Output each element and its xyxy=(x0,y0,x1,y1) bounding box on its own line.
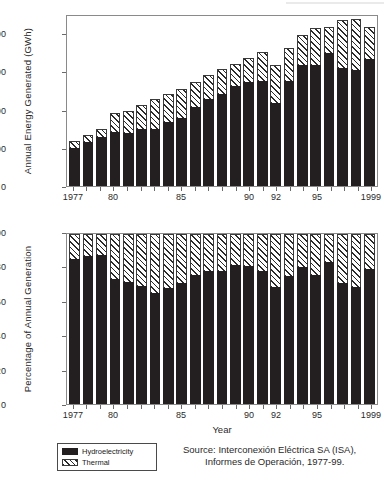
bar-column xyxy=(110,16,121,186)
bar-segment-hydroelectricity xyxy=(217,94,228,186)
bar-segment-hydroelectricity xyxy=(297,267,308,404)
x-tick-mark xyxy=(141,187,142,191)
bar-segment-hydroelectricity xyxy=(217,271,228,404)
bar-segment-thermal xyxy=(243,234,254,266)
bar-column xyxy=(217,16,228,186)
bar-segment-thermal xyxy=(217,234,228,271)
bar-segment-thermal xyxy=(190,82,201,106)
x-tick-mark xyxy=(344,405,345,409)
x-tick-mark xyxy=(127,405,128,409)
bar-segment-thermal xyxy=(163,234,174,288)
x-tick-mark xyxy=(127,187,128,191)
bar-column xyxy=(83,234,94,404)
source-note: Source: Interconexión Eléctrica SA (ISA)… xyxy=(183,444,356,468)
bar-segment-hydroelectricity xyxy=(284,276,295,404)
bar-column xyxy=(163,16,174,186)
bar-segment-thermal xyxy=(257,234,268,271)
legend-label-hydroelectricity: Hydroelectricity xyxy=(82,447,133,456)
bar-column xyxy=(297,16,308,186)
bar-segment-hydroelectricity xyxy=(337,68,348,186)
bar-segment-hydroelectricity xyxy=(324,53,335,186)
y-axis-percentage: 020406080100 xyxy=(0,0,66,425)
bar-segment-thermal xyxy=(123,111,134,132)
x-tick-label: 85 xyxy=(176,410,186,420)
bar-segment-thermal xyxy=(110,234,121,279)
bar-column xyxy=(324,234,335,404)
x-tick-mark xyxy=(303,187,304,191)
bar-column xyxy=(257,234,268,404)
bar-segment-thermal xyxy=(297,35,308,65)
source-note-line-2: Informes de Operación, 1977-99. xyxy=(183,456,356,468)
bar-column xyxy=(69,16,80,186)
y-tick-label: 0 xyxy=(1,400,6,410)
x-tick-mark xyxy=(86,405,87,409)
bar-segment-hydroelectricity xyxy=(310,275,321,404)
bar-segment-hydroelectricity xyxy=(297,65,308,186)
x-tick-mark xyxy=(86,187,87,191)
bar-segment-thermal xyxy=(310,28,321,65)
bar-segment-hydroelectricity xyxy=(176,283,187,404)
x-tick-mark xyxy=(73,187,74,191)
bar-column xyxy=(324,16,335,186)
x-tick-mark xyxy=(263,187,264,191)
y-tick-label: 20 xyxy=(0,366,6,376)
bar-segment-hydroelectricity xyxy=(163,122,174,186)
bar-segment-thermal xyxy=(176,89,187,118)
bar-segment-hydroelectricity xyxy=(257,81,268,186)
bar-segment-thermal xyxy=(96,129,107,137)
bar-column xyxy=(217,234,228,404)
x-tick-mark xyxy=(195,405,196,409)
bar-segment-hydroelectricity xyxy=(110,132,121,186)
bar-column xyxy=(351,234,362,404)
bar-segment-hydroelectricity xyxy=(83,256,94,404)
x-tick-mark xyxy=(371,187,372,191)
bar-segment-thermal xyxy=(324,234,335,262)
bar-segment-thermal xyxy=(364,27,375,59)
bar-segment-hydroelectricity xyxy=(163,288,174,404)
bar-segment-thermal xyxy=(243,58,254,82)
bar-segment-hydroelectricity xyxy=(190,107,201,187)
bar-segment-thermal xyxy=(190,234,201,275)
bar-segment-thermal xyxy=(123,234,134,282)
bar-column xyxy=(83,16,94,186)
bar-segment-thermal xyxy=(230,234,241,265)
bar-column xyxy=(123,234,134,404)
bar-segment-thermal xyxy=(136,234,147,286)
bar-segment-thermal xyxy=(203,234,214,271)
bar-column xyxy=(230,16,241,186)
bar-column xyxy=(203,16,214,186)
bar-segment-thermal xyxy=(270,65,281,103)
bar-segment-hydroelectricity xyxy=(83,142,94,186)
scan-artifact-strip xyxy=(286,2,384,4)
bar-segment-thermal xyxy=(230,64,241,86)
x-tick-label: 95 xyxy=(312,192,322,202)
x-tick-mark xyxy=(263,405,264,409)
bar-column xyxy=(136,16,147,186)
x-tick-mark xyxy=(331,187,332,191)
x-tick-label: 90 xyxy=(244,192,254,202)
bar-column xyxy=(190,234,201,404)
x-tick-mark xyxy=(181,187,182,191)
bar-segment-thermal xyxy=(217,69,228,94)
bar-segment-thermal xyxy=(284,234,295,276)
bar-column xyxy=(337,234,348,404)
bar-segment-hydroelectricity xyxy=(190,275,201,404)
x-tick-mark xyxy=(317,187,318,191)
bar-column xyxy=(96,234,107,404)
bar-column xyxy=(123,16,134,186)
bar-segment-hydroelectricity xyxy=(364,269,375,404)
bar-column xyxy=(284,16,295,186)
x-tick-mark xyxy=(154,187,155,191)
bar-segment-thermal xyxy=(110,113,121,132)
bar-segment-thermal xyxy=(337,234,348,283)
plot-area-percentage xyxy=(66,233,378,405)
bar-segment-thermal xyxy=(337,20,348,67)
bar-segment-thermal xyxy=(257,52,268,81)
x-tick-label: 92 xyxy=(271,192,281,202)
bar-segment-hydroelectricity xyxy=(203,271,214,404)
bar-segment-thermal xyxy=(136,105,147,129)
bar-column xyxy=(96,16,107,186)
bar-segment-hydroelectricity xyxy=(136,129,147,186)
bar-segment-thermal xyxy=(284,48,295,81)
bar-segment-hydroelectricity xyxy=(110,279,121,404)
